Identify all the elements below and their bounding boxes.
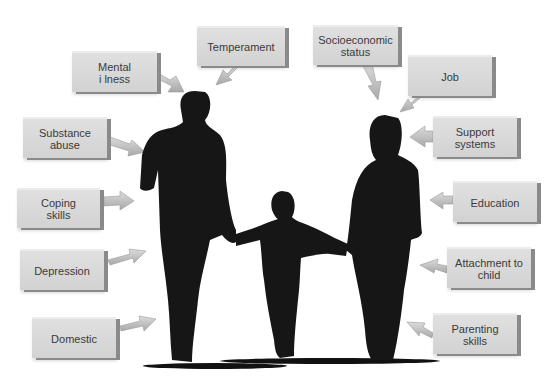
factor-label: Substance abuse <box>39 127 91 151</box>
factor-label: Socioeconomic status <box>318 34 393 58</box>
factor-box-temperament: Temperament <box>197 26 285 66</box>
factor-label: Domestic <box>51 333 97 345</box>
factor-label: Coping skills <box>41 197 76 221</box>
factor-label: Support systems <box>455 126 495 150</box>
factor-label: Parenting skills <box>451 323 498 347</box>
factor-label: Depression <box>34 265 90 277</box>
factor-box-depression: Depression <box>20 249 104 290</box>
factor-box-mental-illness: Mental i lness <box>72 51 157 92</box>
family-silhouette <box>140 91 422 362</box>
factor-box-job: Job <box>408 55 492 96</box>
factor-box-coping-skills: Coping skills <box>17 188 100 228</box>
diagram-canvas: Mental i lness Temperament Substance abu… <box>0 0 559 385</box>
factor-label: Education <box>471 197 520 209</box>
factor-box-parenting-skills: Parenting skills <box>433 313 517 354</box>
factor-label: Mental i lness <box>98 61 131 85</box>
factor-box-attachment-to-child: Attachment to child <box>447 247 531 288</box>
factor-box-education: Education <box>453 181 537 222</box>
factor-box-support-systems: Support systems <box>433 116 517 157</box>
factor-label: Temperament <box>207 41 274 53</box>
factor-label: Job <box>441 71 459 83</box>
factor-box-substance-abuse: Substance abuse <box>23 117 107 158</box>
factor-box-socioeconomic-status: Socioeconomic status <box>313 25 398 65</box>
factor-label: Attachment to child <box>455 257 523 281</box>
factor-box-domestic: Domestic <box>32 317 116 358</box>
